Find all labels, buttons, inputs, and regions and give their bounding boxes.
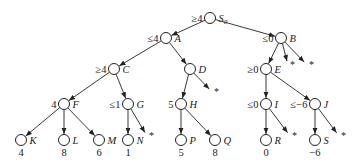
node-circle bbox=[161, 33, 172, 44]
node-circle bbox=[261, 135, 272, 146]
node-C: C≥4 bbox=[95, 64, 130, 76]
node-bound: ≤4 bbox=[147, 33, 159, 44]
edge-F-K bbox=[26, 108, 60, 137]
edge-E-J bbox=[270, 72, 310, 100]
node-label: S0 bbox=[219, 13, 228, 26]
node-G: G≤1 bbox=[109, 99, 144, 111]
node-bound: 4 bbox=[51, 99, 57, 110]
node-label: D bbox=[198, 64, 207, 75]
node-label: E bbox=[274, 64, 282, 75]
node-label: Q bbox=[224, 135, 232, 146]
pruned-marker: * bbox=[149, 130, 154, 141]
leaf-value: 1 bbox=[125, 147, 130, 158]
node-K: K4 bbox=[16, 135, 38, 158]
node-circle bbox=[261, 99, 272, 110]
node-bound: ≤−6 bbox=[291, 99, 308, 110]
node-S: S−6 bbox=[309, 135, 329, 158]
node-circle bbox=[16, 135, 27, 146]
node-Q: Q8 bbox=[210, 135, 232, 158]
pruned-marker: * bbox=[214, 86, 219, 97]
edge-H-Q bbox=[185, 108, 211, 136]
node-circle bbox=[59, 99, 70, 110]
edge-A-D bbox=[169, 42, 186, 64]
pruned-marker: * bbox=[341, 130, 346, 141]
leaf-value: −6 bbox=[309, 147, 320, 158]
node-label: C bbox=[123, 64, 131, 75]
node-circle bbox=[123, 135, 134, 146]
node-circle bbox=[176, 135, 187, 146]
edge-D-pruned3 bbox=[194, 73, 209, 89]
node-label: F bbox=[72, 99, 80, 110]
node-circle bbox=[59, 135, 70, 146]
node-N: N1 bbox=[123, 135, 145, 158]
node-circle bbox=[310, 99, 321, 110]
node-bound: ≤0 bbox=[247, 99, 258, 110]
node-label: S bbox=[324, 135, 330, 146]
node-label: A bbox=[174, 33, 182, 44]
node-P: P5 bbox=[176, 135, 197, 158]
edge-C-G bbox=[116, 74, 126, 98]
leaf-value: 6 bbox=[96, 147, 101, 158]
pruned-marker: * bbox=[290, 59, 295, 70]
node-label: H bbox=[189, 99, 199, 110]
node-F: F4 bbox=[51, 99, 79, 111]
node-circle bbox=[109, 64, 120, 75]
node-M: M6 bbox=[94, 135, 118, 158]
node-L: L8 bbox=[59, 135, 79, 158]
node-bound: ≤1 bbox=[109, 99, 120, 110]
tree-nodes: S0≥4A≤4B≤0C≥4DE≥0F4G≤1H5I≤0J≤−6K4L8M6N1P… bbox=[16, 13, 347, 158]
node-bound: ≤0 bbox=[262, 33, 273, 44]
node-label: N bbox=[136, 135, 145, 146]
node-E: E≥0 bbox=[247, 64, 281, 76]
node-D: D bbox=[185, 64, 207, 76]
node-H: H5 bbox=[168, 99, 198, 111]
node-label: P bbox=[189, 135, 197, 146]
edge-D-H bbox=[182, 74, 188, 98]
edge-B-E bbox=[269, 43, 279, 64]
node-A: A≤4 bbox=[147, 33, 181, 45]
node-label: J bbox=[324, 99, 330, 110]
node-circle bbox=[185, 64, 196, 75]
node-circle bbox=[205, 13, 216, 24]
node-circle bbox=[123, 99, 134, 110]
leaf-value: 0 bbox=[263, 147, 268, 158]
node-circle bbox=[94, 135, 105, 146]
leaf-value: 8 bbox=[212, 147, 217, 158]
node-circle bbox=[261, 64, 272, 75]
edge-F-M bbox=[68, 108, 95, 136]
node-S0: S0≥4 bbox=[191, 13, 227, 27]
pruned-marker: * bbox=[292, 130, 297, 141]
edge-A-C bbox=[119, 41, 161, 66]
node-label: R bbox=[274, 135, 282, 146]
node-bound: ≥4 bbox=[95, 64, 107, 75]
node-B: B≤0 bbox=[262, 33, 296, 45]
game-tree-diagram: S0≥4A≤4B≤0C≥4DE≥0F4G≤1H5I≤0J≤−6K4L8M6N1P… bbox=[0, 0, 356, 168]
node-label: I bbox=[274, 99, 279, 110]
node-bound: ≥0 bbox=[247, 64, 258, 75]
game-tree-svg: S0≥4A≤4B≤0C≥4DE≥0F4G≤1H5I≤0J≤−6K4L8M6N1P… bbox=[0, 0, 356, 168]
node-circle bbox=[310, 135, 321, 146]
node-circle bbox=[276, 33, 287, 44]
leaf-value: 4 bbox=[18, 147, 24, 158]
node-label: M bbox=[107, 135, 118, 146]
node-R: R0 bbox=[261, 135, 282, 158]
node-label: L bbox=[72, 135, 79, 146]
node-circle bbox=[176, 99, 187, 110]
edge-J-pruned6 bbox=[318, 108, 336, 132]
node-circle bbox=[210, 135, 221, 146]
edge-B-pruned1 bbox=[282, 43, 287, 61]
leaf-value: 8 bbox=[61, 147, 66, 158]
pruned-marker: * bbox=[309, 59, 314, 70]
node-label: K bbox=[29, 135, 38, 146]
edge-C-F bbox=[69, 72, 110, 100]
edge-G-pruned4 bbox=[131, 109, 145, 133]
node-label: B bbox=[290, 33, 297, 44]
edge-I-pruned5 bbox=[269, 108, 287, 132]
node-bound: 5 bbox=[168, 99, 173, 110]
leaf-value: 5 bbox=[178, 147, 183, 158]
node-I: I≤0 bbox=[247, 99, 278, 111]
node-label: G bbox=[137, 99, 145, 110]
node-bound: ≥4 bbox=[191, 13, 203, 24]
